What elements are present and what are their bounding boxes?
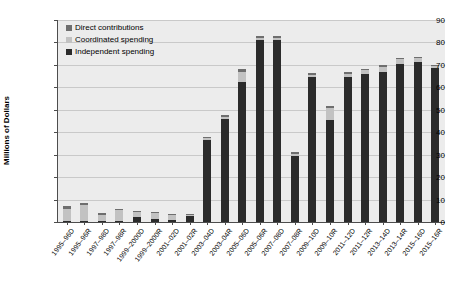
legend-item-label: Independent spending	[75, 47, 154, 57]
bar-segment	[273, 40, 281, 222]
y-axis-tick-label: 70	[421, 61, 445, 70]
chart-legend: Direct contributionsCoordinated spending…	[66, 22, 154, 57]
y-axis-title: Millions of Dollars	[2, 96, 16, 165]
y-axis-tick-label: 10	[421, 196, 445, 205]
legend-swatch-coordinated-spending	[66, 37, 72, 43]
y-axis-tick-mark	[54, 222, 57, 223]
y-axis-tick-label: 0	[421, 218, 445, 227]
legend-item-label: Coordinated spending	[75, 35, 153, 45]
bar-segment	[344, 77, 352, 222]
bar-group	[361, 69, 369, 222]
y-axis-tick-mark	[54, 65, 57, 66]
chart-container: Millions of Dollars 1995–96D1995–96R1997…	[0, 0, 451, 286]
y-axis-tick-label: 40	[421, 128, 445, 137]
legend-item: Independent spending	[66, 46, 154, 57]
y-axis-tick-label: 80	[421, 38, 445, 47]
bar-group	[379, 65, 387, 222]
legend-swatch-direct-contributions	[66, 25, 72, 31]
y-axis-tick-label: 60	[421, 83, 445, 92]
bar-segment	[256, 40, 264, 222]
y-axis-tick-label: 90	[421, 16, 445, 25]
legend-item: Direct contributions	[66, 22, 154, 33]
legend-item-label: Direct contributions	[75, 23, 143, 33]
y-axis-tick-mark	[54, 87, 57, 88]
y-axis-tick-mark	[54, 20, 57, 21]
bar-segment	[361, 74, 369, 222]
bar-segment	[379, 72, 387, 222]
y-axis-tick-label: 20	[421, 173, 445, 182]
bar-group	[238, 69, 246, 222]
bar-group	[63, 206, 71, 222]
bar-segment	[308, 77, 316, 222]
legend-swatch-independent-spending	[66, 49, 72, 55]
bar-segment	[63, 209, 71, 222]
y-axis-tick-mark	[54, 200, 57, 201]
y-axis-tick-label: 50	[421, 106, 445, 115]
legend-item: Coordinated spending	[66, 34, 154, 45]
y-axis-tick-mark	[54, 177, 57, 178]
y-axis-tick-mark	[54, 132, 57, 133]
y-axis-tick-mark	[54, 110, 57, 111]
bar-segment	[238, 82, 246, 222]
bar-group	[308, 73, 316, 222]
bar-group	[396, 58, 404, 222]
x-axis-tick-labels: 1995–96D1995–96R1997–98D1997–98R1999–200…	[0, 225, 451, 286]
y-axis-tick-label: 30	[421, 151, 445, 160]
y-axis-tick-mark	[54, 155, 57, 156]
bar-segment	[396, 64, 404, 222]
y-axis-tick-mark	[54, 42, 57, 43]
bar-group	[344, 72, 352, 222]
y-axis-tick-labels	[26, 20, 54, 222]
bar-group	[273, 36, 281, 222]
bar-group	[256, 36, 264, 222]
bar-segment	[238, 72, 246, 82]
bar-segment	[326, 108, 334, 120]
